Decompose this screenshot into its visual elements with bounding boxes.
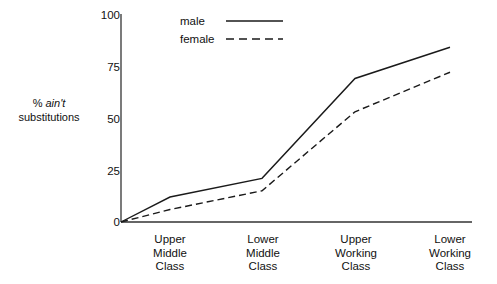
chart-figure: % ain't substitutions 100 75 50 25 0 mal… [0, 0, 497, 284]
chart-plot-svg [0, 0, 497, 284]
series-line-male [121, 47, 450, 222]
series-line-female [121, 72, 450, 222]
